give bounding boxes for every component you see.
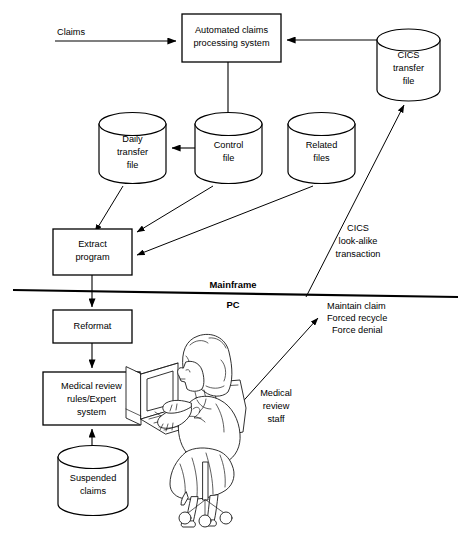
claims-processing-diagram: Mainframe PC Automated claims processing… (0, 0, 469, 539)
medical-review-rules-label-line3: system (77, 407, 106, 417)
mainframe-label: Mainframe (210, 279, 257, 290)
staff-actions-label: Maintain claim Forced recycle Force deni… (327, 301, 387, 335)
suspended-claims-label-line1: Suspended (70, 473, 117, 483)
node-medical-review-rules-expert-system[interactable]: Medical review rules/Expert system (43, 372, 140, 425)
actions-line1: Maintain claim (327, 301, 386, 311)
diagram-canvas: Mainframe PC Automated claims processing… (0, 0, 469, 539)
daily-transfer-file-label-line3: file (127, 160, 139, 170)
control-file-label-line2: file (223, 153, 235, 163)
automated-claims-label-line1: Automated claims (195, 25, 268, 35)
cics-transfer-file-label-line2: transfer (393, 63, 424, 73)
mainframe-pc-divider: Mainframe PC (13, 279, 458, 310)
node-reformat[interactable]: Reformat (53, 310, 132, 343)
cics-lookalike-transaction-label: CICS look-alike transaction (336, 223, 381, 259)
node-control-file[interactable]: Control file (195, 113, 262, 184)
pc-label: PC (226, 299, 239, 310)
claims-input-label: Claims (57, 27, 85, 37)
automated-claims-label-line2: processing system (193, 38, 269, 48)
node-extract-program[interactable]: Extract program (53, 229, 132, 275)
cics-lookalike-line1: CICS (347, 223, 369, 233)
daily-transfer-file-label-line1: Daily (122, 134, 143, 144)
suspended-claims-label-line2: claims (80, 486, 106, 496)
node-daily-transfer-file[interactable]: Daily transfer file (99, 113, 166, 184)
connector-control-to-extract (137, 186, 213, 232)
cics-transfer-file-label-line3: file (403, 76, 415, 86)
cics-lookalike-line2: look-alike (339, 236, 378, 246)
node-automated-claims-processing-system[interactable]: Automated claims processing system (182, 14, 281, 62)
medical-review-staff-label: Medical review staff (260, 388, 292, 424)
node-cics-transfer-file[interactable]: CICS transfer file (377, 29, 440, 101)
cics-transfer-file-label-line1: CICS (398, 50, 420, 60)
connector-related-to-extract (137, 186, 313, 255)
actions-line3: Force denial (332, 325, 383, 335)
extract-program-label-line1: Extract (78, 239, 107, 249)
node-suspended-claims[interactable]: Suspended claims (58, 446, 128, 516)
related-files-label-line2: files (313, 153, 330, 163)
daily-transfer-file-label-line2: transfer (117, 147, 148, 157)
related-files-label-line1: Related (306, 140, 338, 150)
medical-review-staff-line1: Medical (260, 388, 292, 398)
reformat-label: Reformat (74, 321, 112, 331)
cics-lookalike-line3: transaction (336, 249, 381, 259)
medical-review-rules-label-line1: Medical review (61, 381, 122, 391)
medical-review-staff-line3: staff (267, 414, 285, 424)
control-file-label-line1: Control (214, 140, 244, 150)
node-related-files[interactable]: Related files (288, 113, 355, 184)
medical-review-staff-line2: review (263, 401, 290, 411)
actions-line2: Forced recycle (327, 313, 387, 323)
extract-program-label-line2: program (75, 252, 110, 262)
connector-daily-to-extract (95, 186, 123, 232)
medical-review-staff-illustration (126, 334, 246, 527)
medical-review-rules-label-line2: rules/Expert (67, 394, 116, 404)
